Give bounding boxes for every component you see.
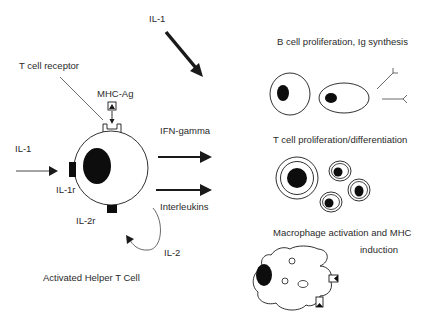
il2-autocrine-arrow (126, 208, 160, 250)
t-cell-effect-label: T cell proliferation/differentiation (273, 134, 407, 145)
il1-receptor-icon (69, 162, 76, 177)
ifn-gamma-label: IFN-gamma (160, 125, 211, 136)
interleukins-label: Interleukins (160, 201, 209, 212)
tcr-label: T cell receptor (19, 60, 79, 71)
b-cell-1 (270, 73, 310, 115)
il2-receptor-icon (107, 205, 117, 213)
b-cell-1-nucleus (277, 85, 289, 101)
helper-t-cell-nucleus (83, 148, 111, 184)
mhc-protrusion-icon (316, 297, 323, 307)
b-cell-group (270, 68, 407, 115)
mhc-ag-label: MHC-Ag (97, 88, 133, 99)
il1-left-label: IL-1 (15, 143, 31, 154)
macrophage-effect-label-line2: induction (360, 244, 398, 255)
ifn-gamma-arrow (158, 151, 212, 163)
il1r-label: IL-1r (56, 184, 76, 195)
il1-top-arrow (166, 32, 203, 77)
mhc-ag-icon (108, 102, 116, 124)
b-cell-effect-label: B cell proliferation, Ig synthesis (277, 36, 408, 47)
il1-top-label: IL-1 (149, 13, 165, 24)
b-cell-2-nucleus (325, 93, 337, 103)
antibody-icon (382, 95, 407, 103)
helper-t-cell-diagram: IL-1 T cell receptor MHC-Ag IL-1r IL-2r … (0, 0, 429, 316)
macrophage-group (253, 246, 338, 310)
activated-helper-t-cell-caption: Activated Helper T Cell (43, 272, 140, 283)
mhc-protrusion-icon (329, 275, 338, 282)
macrophage-effect-label-line1: Macrophage activation and MHC (273, 227, 411, 238)
diagram-canvas: IL-1 T cell receptor MHC-Ag IL-1r IL-2r … (0, 0, 429, 316)
macrophage-nucleus (256, 264, 272, 286)
antibody-icon (377, 68, 398, 89)
interleukins-arrow (156, 184, 212, 196)
il1-left-arrow (16, 166, 58, 176)
t-cell-group (276, 157, 370, 212)
il2r-label: IL-2r (76, 215, 96, 226)
il2-label: IL-2 (164, 247, 180, 258)
